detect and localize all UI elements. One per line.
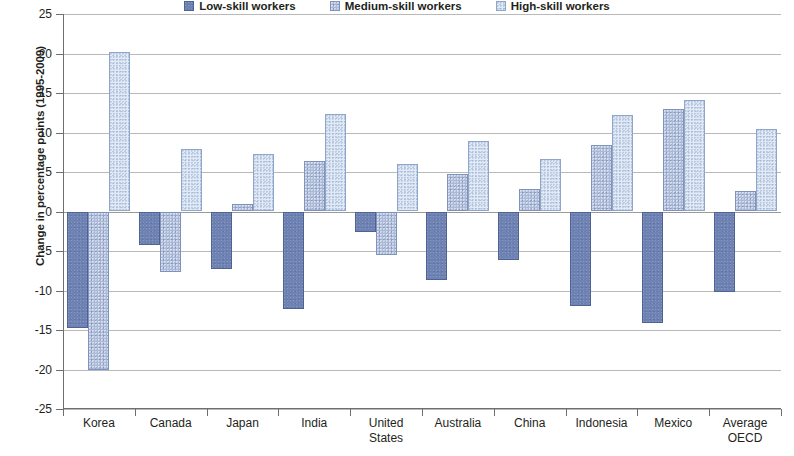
bar — [88, 212, 109, 370]
bar — [756, 129, 777, 211]
bar — [283, 212, 304, 309]
bar — [684, 100, 705, 211]
bar-chart: Change in percentage points (1995-2009) … — [0, 0, 794, 456]
bar — [67, 212, 88, 329]
y-tick-label: 0 — [45, 205, 52, 219]
bar — [714, 212, 735, 293]
y-tick-mark — [56, 291, 63, 292]
bar — [426, 212, 447, 281]
x-tick-mark — [709, 409, 710, 416]
gridline — [63, 330, 781, 331]
x-axis-category-label: Canada — [135, 416, 207, 456]
x-tick-mark — [207, 409, 208, 416]
bar — [468, 141, 489, 211]
legend-label: Medium-skill workers — [345, 0, 462, 12]
gridline — [63, 370, 781, 371]
y-tick-label: 10 — [39, 126, 52, 140]
y-tick-label: 5 — [45, 165, 52, 179]
x-axis-category-label: China — [494, 416, 566, 456]
legend-swatch-icon — [330, 1, 340, 11]
y-tick-mark — [56, 330, 63, 331]
bar — [232, 204, 253, 211]
plot-area: 2520151050-5-10-15-20-25 — [63, 14, 781, 409]
x-axis-category-label: Mexico — [637, 416, 709, 456]
y-tick-mark — [56, 409, 63, 410]
bar — [160, 212, 181, 273]
x-tick-mark — [350, 409, 351, 416]
y-tick-label: 20 — [39, 47, 52, 61]
bar — [181, 149, 202, 211]
x-axis-category-label: Average OECD — [709, 416, 781, 456]
x-tick-mark — [63, 409, 64, 416]
bar — [663, 109, 684, 212]
bar — [397, 164, 418, 211]
bar — [253, 154, 274, 212]
x-tick-mark — [135, 409, 136, 416]
x-tick-mark — [566, 409, 567, 416]
y-tick-label: -10 — [35, 284, 52, 298]
gridline — [63, 291, 781, 292]
y-axis-line — [63, 14, 64, 409]
bar — [376, 212, 397, 255]
gridline — [63, 54, 781, 55]
bar — [612, 115, 633, 211]
x-axis-labels: KoreaCanadaJapanIndiaUnited StatesAustra… — [63, 416, 781, 456]
bar — [642, 212, 663, 323]
y-tick-mark — [56, 251, 63, 252]
legend-item-medium-skill[interactable]: Medium-skill workers — [330, 0, 462, 12]
gridline — [63, 14, 781, 15]
bar — [325, 114, 346, 212]
x-axis-category-label: United States — [350, 416, 422, 456]
x-axis-category-label: India — [278, 416, 350, 456]
y-tick-label: 15 — [39, 86, 52, 100]
y-tick-mark — [56, 212, 63, 213]
y-tick-mark — [56, 370, 63, 371]
y-tick-label: -15 — [35, 323, 52, 337]
bar — [735, 191, 756, 212]
bar — [139, 212, 160, 246]
y-tick-label: -25 — [35, 402, 52, 416]
y-tick-label: -5 — [41, 244, 52, 258]
legend-label: High-skill workers — [511, 0, 610, 12]
x-tick-mark — [781, 409, 782, 416]
bar — [447, 174, 468, 212]
y-tick-mark — [56, 14, 63, 15]
bar — [519, 189, 540, 211]
bar — [355, 212, 376, 233]
x-axis-category-label: Indonesia — [566, 416, 638, 456]
legend-swatch-icon — [496, 1, 506, 11]
x-axis-category-label: Korea — [63, 416, 135, 456]
legend-label: Low-skill workers — [199, 0, 296, 12]
legend-swatch-icon — [184, 1, 194, 11]
y-tick-mark — [56, 93, 63, 94]
x-axis-category-label: Japan — [207, 416, 279, 456]
bar — [211, 212, 232, 270]
x-tick-mark — [278, 409, 279, 416]
bar — [498, 212, 519, 261]
bar — [304, 161, 325, 212]
x-tick-mark — [494, 409, 495, 416]
y-tick-mark — [56, 54, 63, 55]
bar — [109, 52, 130, 212]
legend-item-low-skill[interactable]: Low-skill workers — [184, 0, 296, 12]
x-axis-category-label: Australia — [422, 416, 494, 456]
x-axis-line — [63, 408, 781, 409]
x-tick-mark — [422, 409, 423, 416]
chart-legend: Low-skill workersMedium-skill workersHig… — [0, 0, 794, 12]
bar — [570, 212, 591, 306]
y-tick-label: -20 — [35, 363, 52, 377]
gridline — [63, 93, 781, 94]
bar — [540, 159, 561, 212]
y-tick-mark — [56, 133, 63, 134]
x-tick-mark — [637, 409, 638, 416]
y-tick-mark — [56, 172, 63, 173]
legend-item-high-skill[interactable]: High-skill workers — [496, 0, 610, 12]
bar — [591, 145, 612, 211]
